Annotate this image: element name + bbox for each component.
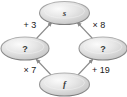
node-left-label: ?	[22, 44, 28, 54]
node-right-label: ?	[100, 44, 106, 54]
edge-right-to-top	[77, 22, 93, 39]
edge-left-to-top	[36, 22, 52, 39]
edge-label-left-to-top: + 3	[24, 20, 37, 30]
node-top[interactable]: s	[40, 2, 90, 25]
flow-diagram: s ? ? f + 3 × 8 × 7 + 19	[0, 0, 127, 97]
edge-label-bottom-to-right: + 19	[92, 65, 110, 75]
edge-label-right-to-top: × 8	[93, 20, 106, 30]
edge-label-bottom-to-left: × 7	[24, 65, 37, 75]
edge-bottom-to-left	[36, 59, 52, 76]
node-right[interactable]: ?	[79, 37, 127, 60]
node-top-label: s	[62, 8, 67, 18]
edge-bottom-to-right	[77, 59, 93, 76]
node-bottom[interactable]: f	[40, 73, 90, 96]
diagram-canvas: s ? ? f + 3 × 8 × 7 + 19	[0, 0, 127, 97]
node-left[interactable]: ?	[1, 37, 49, 60]
